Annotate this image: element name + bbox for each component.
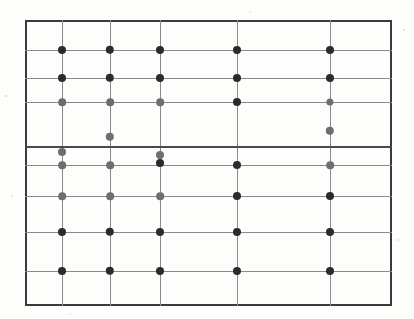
grid-line-horizontal <box>25 232 392 233</box>
data-point-marker <box>233 98 241 106</box>
grid-line-horizontal <box>25 102 392 103</box>
data-point-marker <box>58 228 66 236</box>
data-point-marker <box>58 74 66 82</box>
data-point-marker <box>233 228 241 236</box>
data-point-marker <box>58 46 66 54</box>
data-point-marker <box>233 192 241 200</box>
data-point-marker <box>106 192 114 200</box>
data-point-marker <box>326 74 334 82</box>
data-point-marker <box>58 192 66 200</box>
data-point-marker <box>58 98 66 106</box>
data-point-marker <box>156 192 164 200</box>
data-point-marker <box>233 161 241 169</box>
grid-line-horizontal <box>25 271 392 272</box>
data-point-marker <box>326 192 334 200</box>
data-point-marker <box>326 228 334 236</box>
data-point-marker <box>156 98 164 106</box>
data-point-marker <box>233 46 241 54</box>
plot-frame-border <box>25 20 392 306</box>
grid-line-horizontal-emphasis <box>25 146 392 148</box>
grid-line-horizontal <box>25 50 392 51</box>
data-point-marker <box>106 98 114 106</box>
data-point-marker <box>156 46 164 54</box>
data-point-marker <box>156 151 164 159</box>
data-point-marker <box>156 228 164 236</box>
grid-line-horizontal <box>25 78 392 79</box>
data-point-marker <box>326 46 334 54</box>
data-point-marker <box>58 148 66 156</box>
grid-line-horizontal <box>25 196 392 197</box>
data-point-marker <box>106 161 114 169</box>
data-point-marker <box>233 74 241 82</box>
data-point-marker <box>58 267 66 275</box>
data-point-marker <box>233 267 241 275</box>
data-point-marker <box>156 74 164 82</box>
data-point-marker <box>58 161 66 169</box>
grid-line-horizontal <box>25 165 392 166</box>
data-point-marker <box>326 161 334 169</box>
data-point-marker <box>156 159 164 167</box>
data-point-marker <box>156 267 164 275</box>
scanned-figure-canvas <box>0 0 414 319</box>
data-point-marker <box>326 267 334 275</box>
